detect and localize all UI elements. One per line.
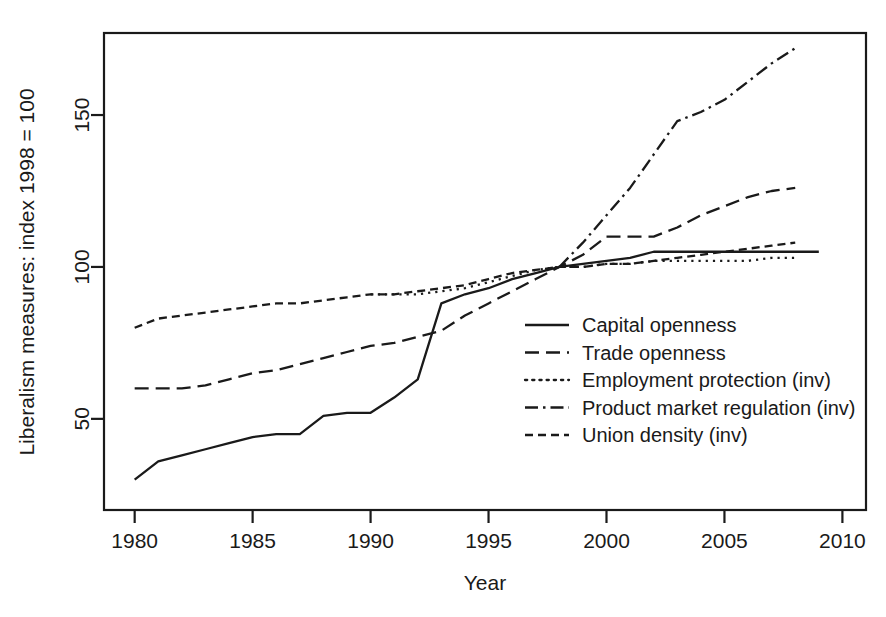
legend-label: Trade openness: [582, 342, 726, 364]
y-tick-label: 50: [71, 407, 94, 430]
x-tick-label: 1980: [111, 529, 158, 552]
x-axis-ticks: 1980198519901995200020052010: [111, 510, 865, 552]
x-tick-label: 1995: [465, 529, 512, 552]
chart-legend: Capital opennessTrade opennessEmployment…: [525, 314, 855, 446]
y-tick-label: 150: [71, 98, 94, 133]
legend-label: Employment protection (inv): [582, 369, 831, 391]
y-axis-ticks: 50100150: [71, 98, 105, 431]
chart-svg: 50100150 1980198519901995200020052010 Ca…: [0, 0, 886, 617]
liberalism-measures-line-chart: 50100150 1980198519901995200020052010 Ca…: [0, 0, 886, 617]
plot-frame: [104, 33, 866, 510]
x-axis-title: Year: [464, 571, 506, 594]
y-axis-title: Liberalism measures: index 1998 = 100: [15, 88, 38, 455]
x-tick-label: 2000: [583, 529, 630, 552]
legend-label: Union density (inv): [582, 424, 748, 446]
legend-label: Product market regulation (inv): [582, 397, 855, 419]
x-tick-label: 1985: [229, 529, 276, 552]
series-line: [559, 48, 795, 267]
x-tick-label: 2010: [819, 529, 866, 552]
legend-label: Capital openness: [582, 314, 737, 336]
y-tick-label: 100: [71, 249, 94, 284]
x-tick-label: 2005: [701, 529, 748, 552]
x-tick-label: 1990: [347, 529, 394, 552]
